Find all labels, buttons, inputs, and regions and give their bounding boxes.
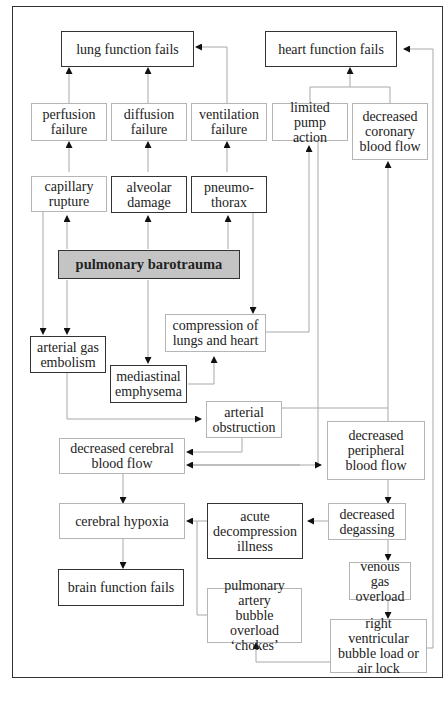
node-pulmonary-barotrauma: pulmonary barotrauma: [58, 250, 240, 279]
node-decreased-coronary-blood-flow: decreased coronary blood flow: [352, 103, 428, 160]
node-arterial-obstruction: arterial obstruction: [206, 401, 282, 438]
node-alveolar-damage: alveolar damage: [111, 176, 187, 213]
node-heart-function-fails: heart function fails: [265, 31, 397, 67]
node-arterial-gas-embolism: arterial gas embolism: [30, 336, 106, 373]
node-decreased-peripheral-blood-flow: decreased peripheral blood flow: [327, 421, 425, 480]
node-limited-pump-action: limited pump action: [272, 103, 348, 141]
node-pulmonary-artery-bubble-overload-chokes: pulmonary artery bubble overload ‘chokes…: [207, 588, 302, 643]
node-right-ventricular-bubble-load: right ventricular bubble load or air loc…: [330, 619, 427, 673]
node-capillary-rupture: capillary rupture: [31, 176, 107, 212]
node-pneumothorax: pneumo- thorax: [191, 176, 267, 213]
node-decreased-degassing: decreased degassing: [328, 503, 406, 540]
node-lung-function-fails: lung function fails: [61, 31, 194, 67]
node-brain-function-fails: brain function fails: [58, 569, 184, 606]
node-perfusion-failure: perfusion failure: [31, 103, 107, 141]
node-decreased-cerebral-blood-flow: decreased cerebral blood flow: [59, 438, 185, 474]
node-cerebral-hypoxia: cerebral hypoxia: [59, 503, 185, 539]
node-mediastinal-emphysema: mediastinal emphysema: [110, 365, 187, 403]
node-ventilation-failure: ventilation failure: [191, 103, 267, 141]
node-venous-gas-overload: venous gas overload: [349, 562, 411, 600]
node-compression-of-lungs-and-heart: compression of lungs and heart: [165, 314, 266, 352]
node-diffusion-failure: diffusion failure: [111, 103, 187, 141]
node-acute-decompression-illness: acute decompression illness: [207, 503, 303, 559]
